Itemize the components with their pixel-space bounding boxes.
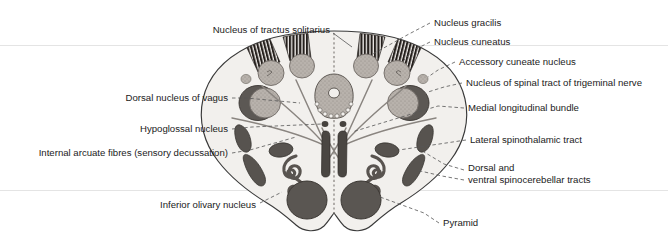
nucleus-gracilis-left xyxy=(290,54,315,78)
pyramid-left xyxy=(287,181,327,219)
label-nucleus-of-spinal-tract-of-trigeminal-nerve: Nucleus of spinal tract of trigeminal ne… xyxy=(466,77,642,88)
hypoglossal-nucleus-right xyxy=(340,121,347,127)
accessory-cuneate-nucleus-left xyxy=(241,74,251,83)
label-medial-longitudinal-bundle: Medial longitudinal bundle xyxy=(468,102,579,113)
label-pyramid: Pyramid xyxy=(443,217,478,228)
label-nucleus-of-tractus-solitarius: Nucleus of tractus solitarius xyxy=(213,24,331,35)
label-inferior-olivary-nucleus: Inferior olivary nucleus xyxy=(160,199,256,210)
nucleus-gracilis-right xyxy=(354,54,379,78)
dorsal-nucleus-of-vagus-left xyxy=(250,88,281,118)
figure-canvas: Nucleus of tractus solitarius Dorsal nuc… xyxy=(0,0,668,239)
label-hypoglossal-nucleus: Hypoglossal nucleus xyxy=(140,123,228,134)
label-dorsal-nucleus-of-vagus: Dorsal nucleus of vagus xyxy=(126,92,229,103)
label-nucleus-gracilis: Nucleus gracilis xyxy=(434,17,501,28)
label-accessory-cuneate-nucleus: Accessory cuneate nucleus xyxy=(459,56,576,67)
label-nucleus-cuneatus: Nucleus cuneatus xyxy=(434,36,510,47)
pyramid-right xyxy=(341,181,381,219)
label-lateral-spinothalamic-tract: Lateral spinothalamic tract xyxy=(470,134,582,145)
central-canal xyxy=(329,88,340,98)
central-gray-matter xyxy=(315,74,353,118)
accessory-cuneate-nucleus-right xyxy=(418,74,428,83)
medial-longitudinal-bundle-right xyxy=(338,131,347,177)
label-dorsal-and: Dorsal and xyxy=(468,162,514,173)
spinal-trigeminal-complex-left xyxy=(239,86,281,121)
medial-longitudinal-bundle-left xyxy=(322,131,331,177)
label-internal-arcuate-fibres: Internal arcuate fibres (sensory decussa… xyxy=(39,147,228,158)
label-ventral-spinocerebellar-tracts: ventral spinocerebellar tracts xyxy=(468,174,591,185)
hypoglossal-nucleus-left xyxy=(322,121,329,127)
